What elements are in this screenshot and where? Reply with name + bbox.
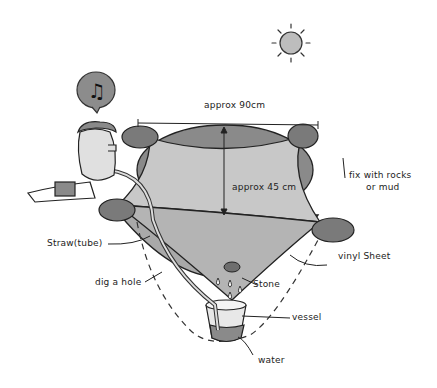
illustration: ♫ [0,0,437,388]
fix-label-2: or mud [366,182,399,192]
person-icon [28,122,116,202]
hole-label: dig a hole [95,277,141,287]
svg-text:♫: ♫ [88,79,106,103]
solar-still-diagram: ♫ [0,0,437,388]
stone [224,262,240,272]
sheet-cone [118,205,320,300]
depth-label: approx 45 cm [232,182,296,192]
music-note-bubble-icon: ♫ [77,34,117,113]
vinyl-label: vinyl Sheet [338,251,390,261]
fix-label: fix with rocks [349,170,411,180]
stone-label: Stone [253,279,280,289]
vessel [206,300,246,342]
sun-icon [272,24,310,62]
straw-label: Straw(tube) [47,238,103,248]
width-label: approx 90cm [204,100,265,110]
water-label: water [258,355,285,365]
vessel-label: vessel [292,312,321,322]
